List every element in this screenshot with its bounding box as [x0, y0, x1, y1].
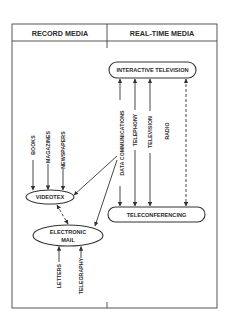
node-label: VIDEOTEX — [36, 194, 65, 200]
column-header-record-media: RECORD MEDIA — [32, 29, 88, 38]
label-newspapers: NEWSPAPERS — [60, 131, 66, 169]
label-magazines: MAGAZINES — [45, 131, 51, 163]
column-header-real-time-media: REAL-TIME MEDIA — [130, 29, 194, 38]
node-teleconferencing: TELECONFERENCING — [108, 207, 205, 222]
label-letters: LETTERS — [56, 263, 62, 288]
label-data-communications: DATA COMMUNICATIONS — [119, 110, 125, 176]
node-videotex: VIDEOTEX — [26, 190, 74, 204]
arrow-videotex-email — [57, 205, 68, 224]
node-label: INTERACTIVE TELEVISION — [116, 67, 188, 73]
arrow-datacomm-to-videotex — [74, 156, 117, 195]
label-telephony: TELEPHONY — [132, 113, 138, 146]
node-electronic-mail: ELECTRONIC MAIL — [33, 225, 103, 246]
label-books: BOOKS — [30, 135, 36, 155]
media-diagram: RECORD MEDIA REAL-TIME MEDIA INTERACTIVE… — [0, 0, 228, 322]
node-label-line1: ELECTRONIC — [50, 229, 86, 235]
label-telegraphy: TELEGRAPHY — [78, 257, 84, 294]
node-label-line2: MAIL — [61, 237, 75, 243]
node-interactive-television: INTERACTIVE TELEVISION — [109, 62, 196, 78]
label-television: TELEVISION — [147, 116, 153, 148]
node-label: TELECONFERENCING — [127, 212, 187, 218]
label-radio: RADIO — [164, 122, 170, 139]
